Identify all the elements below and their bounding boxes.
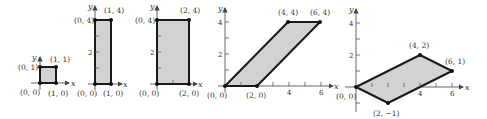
vertex-label: (4, 2) xyxy=(409,41,429,50)
unit-square-shape xyxy=(40,67,56,83)
y-axis-label: y xyxy=(149,2,155,11)
vertex-label: (6, 4) xyxy=(310,8,330,17)
x-axis-label: x xyxy=(123,80,128,89)
x-tick-label: 4 xyxy=(287,89,292,97)
y-tick-label: 2 xyxy=(150,49,154,57)
vertex-dot xyxy=(38,65,42,69)
vertex-label: (0, 0) xyxy=(139,89,159,98)
y-tick-label: 2 xyxy=(88,49,92,57)
panel-rectangle-2x4: x y 2 (0, 0) (2, 0) (2, 4) (0, 4) xyxy=(135,2,203,98)
vertex-label: (0, 0) xyxy=(207,91,227,100)
vertex-label: (6, 1) xyxy=(445,57,465,66)
vertex-label: (0, 4) xyxy=(74,16,94,25)
x-axis-label: x xyxy=(465,83,470,92)
vertex-dot xyxy=(38,81,42,85)
vertex-label: (2, 0) xyxy=(179,89,199,98)
y-tick-label: 4 xyxy=(218,19,223,27)
vertex-label: (1, 1) xyxy=(50,55,70,64)
vertex-label: (2, −1) xyxy=(373,109,400,118)
x-tick-label: 6 xyxy=(450,90,455,98)
panel-shear-parallelogram: x y 2 4 4 6 (0, 0) (2, 0) (4, 4) (6, 4) xyxy=(207,4,339,100)
vertex-label: (4, 4) xyxy=(278,8,298,17)
vertex-label: (0, 4) xyxy=(135,16,155,25)
y-tick-label: 4 xyxy=(349,20,354,28)
panel-unit-square: x y (0, 0) (1, 0) (1, 1) (0, 1) xyxy=(18,53,76,98)
y-axis-label: y xyxy=(348,5,354,14)
y-tick-label: 2 xyxy=(218,51,222,59)
vertex-label: (0, 1) xyxy=(18,63,38,72)
vertex-label: (1, 0) xyxy=(48,89,68,98)
y-axis-label: y xyxy=(217,4,223,13)
vertex-label: (0, 0) xyxy=(336,92,356,101)
shear-parallelogram-shape xyxy=(225,22,320,86)
vertex-label: (0, 0) xyxy=(20,88,40,97)
vertex-dot xyxy=(54,65,58,69)
panel-rotated-parallelogram: x y 2 4 4 6 (0, 0) (2, −1) (4, 2) (6, 1) xyxy=(336,5,470,118)
vertex-label: (2, 4) xyxy=(180,6,200,15)
y-axis-label: y xyxy=(87,2,93,11)
x-axis-label: x xyxy=(334,82,339,91)
x-axis-label: x xyxy=(198,80,203,89)
rotated-parallelogram-shape xyxy=(356,55,452,103)
transformations-figure: x y (0, 0) (1, 0) (1, 1) (0, 1) x y 2 (0… xyxy=(0,0,487,119)
x-tick-label: 4 xyxy=(418,90,423,98)
vertex-label: (2, 0) xyxy=(246,91,266,100)
x-axis-label: x xyxy=(71,79,76,88)
vertex-label: (0, 0) xyxy=(77,89,97,98)
vertex-label: (1, 0) xyxy=(103,89,123,98)
vertex-label: (1, 4) xyxy=(104,6,124,15)
y-tick-label: 2 xyxy=(349,52,353,60)
y-axis-label: y xyxy=(31,53,37,62)
rectangle-2x4-shape xyxy=(157,20,189,84)
x-tick-label: 6 xyxy=(319,89,324,97)
panel-rectangle-1x4: x y 2 (0, 0) (1, 0) (1, 4) (0, 4) xyxy=(74,2,128,98)
vertex-dot xyxy=(54,81,58,85)
